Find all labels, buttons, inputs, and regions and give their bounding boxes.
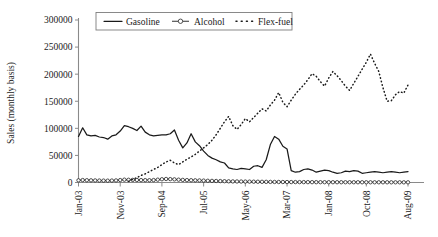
- alcohol-data-marker: [323, 181, 326, 184]
- alcohol-data-marker: [365, 181, 368, 184]
- alcohol-data-marker: [102, 179, 105, 182]
- x-axis-tick-label: Jan-08: [324, 190, 334, 216]
- alcohol-data-marker: [385, 181, 388, 184]
- alcohol-data-marker: [310, 180, 313, 183]
- alcohol-data-marker: [298, 180, 301, 183]
- alcohol-data-marker: [206, 179, 209, 182]
- alcohol-data-marker: [81, 178, 84, 181]
- alcohol-data-marker: [164, 177, 167, 180]
- alcohol-data-marker: [269, 180, 272, 183]
- x-axis-tick-label: Jan-03: [74, 190, 84, 216]
- y-axis: 050000100000150000200000250000300000: [44, 15, 79, 188]
- alcohol-data-marker: [181, 178, 184, 181]
- alcohol-data-marker: [373, 181, 376, 184]
- y-axis-tick-label: 0: [68, 178, 73, 188]
- alcohol-data-marker: [335, 181, 338, 184]
- x-axis-tick-label: Aug-09: [403, 190, 413, 219]
- alcohol-data-marker: [98, 179, 101, 182]
- alcohol-data-marker: [214, 179, 217, 182]
- x-axis-tick-label: Sep-04: [157, 190, 167, 217]
- alcohol-data-marker: [360, 181, 363, 184]
- x-axis-tick-label: May-06: [241, 190, 251, 220]
- alcohol-data-marker: [244, 180, 247, 183]
- alcohol-data-marker: [177, 178, 180, 181]
- y-axis-tick-label: 200000: [44, 70, 73, 80]
- alcohol-data-marker: [231, 180, 234, 183]
- alcohol-data-marker: [352, 181, 355, 184]
- chart-legend: GasolineAlcoholFlex-fuel: [96, 13, 293, 31]
- alcohol-data-marker: [344, 181, 347, 184]
- y-axis-tick-label: 250000: [44, 42, 73, 52]
- x-axis-tick-label: Jul-05: [199, 190, 209, 214]
- alcohol-data-marker: [219, 179, 222, 182]
- alcohol-data-marker: [202, 179, 205, 182]
- alcohol-data-marker: [256, 180, 259, 183]
- alcohol-data-marker: [123, 178, 126, 181]
- alcohol-data-marker: [331, 181, 334, 184]
- alcohol-data-marker: [110, 179, 113, 182]
- alcohol-data-marker: [273, 180, 276, 183]
- alcohol-data-marker: [340, 181, 343, 184]
- alcohol-data-marker: [327, 181, 330, 184]
- alcohol-data-marker: [85, 179, 88, 182]
- alcohol-data-marker: [173, 178, 176, 181]
- alcohol-data-marker: [77, 179, 80, 182]
- alcohol-data-marker: [381, 181, 384, 184]
- y-axis-tick-label: 50000: [49, 151, 73, 161]
- x-axis: Jan-03Nov-03Sep-04Jul-05May-06Mar-07Jan-…: [74, 183, 424, 221]
- alcohol-data-marker: [356, 181, 359, 184]
- alcohol-data-marker: [377, 181, 380, 184]
- alcohol-data-marker: [252, 180, 255, 183]
- alcohol-data-marker: [89, 179, 92, 182]
- alcohol-data-marker: [315, 180, 318, 183]
- x-axis-tick-label: Oct-08: [362, 190, 372, 217]
- legend-label-alcohol: Alcohol: [194, 17, 225, 27]
- series-line-flexfuel: [129, 54, 408, 181]
- alcohol-data-marker: [227, 180, 230, 183]
- y-axis-tick-label: 300000: [44, 15, 73, 25]
- x-axis-tick-label: Mar-07: [282, 190, 292, 219]
- alcohol-data-marker: [394, 181, 397, 184]
- alcohol-data-marker: [306, 180, 309, 183]
- alcohol-data-marker: [114, 179, 117, 182]
- alcohol-data-marker: [156, 178, 159, 181]
- alcohol-data-marker: [160, 178, 163, 181]
- legend-label-gasoline: Gasoline: [126, 17, 160, 27]
- series-layer: [77, 54, 410, 184]
- alcohol-data-marker: [235, 180, 238, 183]
- y-axis-title: Sales (monthly basis): [6, 62, 17, 144]
- alcohol-data-marker: [223, 180, 226, 183]
- alcohol-data-marker: [106, 179, 109, 182]
- alcohol-data-marker: [348, 181, 351, 184]
- line-chart: 050000100000150000200000250000300000 Jan…: [0, 0, 438, 237]
- chart-container: 050000100000150000200000250000300000 Jan…: [0, 0, 438, 237]
- alcohol-data-marker: [402, 181, 405, 184]
- alcohol-data-marker: [169, 177, 172, 180]
- alcohol-data-marker: [210, 179, 213, 182]
- alcohol-data-marker: [302, 180, 305, 183]
- alcohol-data-marker: [144, 178, 147, 181]
- alcohol-data-marker: [281, 180, 284, 183]
- alcohol-data-marker: [398, 181, 401, 184]
- alcohol-data-marker: [294, 180, 297, 183]
- alcohol-data-marker: [248, 180, 251, 183]
- alcohol-data-marker: [194, 179, 197, 182]
- alcohol-data-marker: [285, 180, 288, 183]
- alcohol-data-marker: [93, 179, 96, 182]
- alcohol-data-marker: [369, 181, 372, 184]
- alcohol-data-marker: [260, 180, 263, 183]
- y-axis-tick-label: 100000: [44, 124, 73, 134]
- y-axis-tick-label: 150000: [44, 97, 73, 107]
- legend-label-flexfuel: Flex-fuel: [258, 17, 293, 27]
- alcohol-data-marker: [406, 181, 409, 184]
- alcohol-data-marker: [148, 179, 151, 182]
- alcohol-data-marker: [185, 178, 188, 181]
- alcohol-data-marker: [319, 180, 322, 183]
- alcohol-data-marker: [277, 180, 280, 183]
- alcohol-data-marker: [290, 180, 293, 183]
- alcohol-data-marker: [239, 180, 242, 183]
- alcohol-data-marker: [119, 178, 122, 181]
- alcohol-data-marker: [198, 179, 201, 182]
- alcohol-data-marker: [152, 178, 155, 181]
- alcohol-data-marker: [189, 179, 192, 182]
